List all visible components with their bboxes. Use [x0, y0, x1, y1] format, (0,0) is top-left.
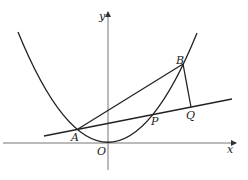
point-q-label: Q	[186, 109, 195, 122]
y-axis-label: y	[98, 10, 106, 23]
point-b-label: B	[175, 54, 184, 67]
diagram-svg: y x O A B P Q	[0, 0, 248, 180]
point-a-label: A	[70, 131, 79, 144]
x-axis-label: x	[227, 143, 234, 156]
origin-label: O	[97, 145, 106, 158]
diagram-canvas: y x O A B P Q	[0, 0, 248, 180]
segment-bq	[183, 64, 191, 107]
point-p-label: P	[150, 115, 159, 128]
